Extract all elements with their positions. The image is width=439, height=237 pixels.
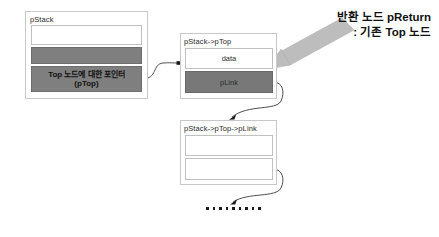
node-pstack-ptop-plink-label: pStack->pTop->pLink [184,124,257,133]
plink-link-field[interactable] [185,158,273,180]
callout-line-2: : 기존 Top 노드 [337,25,431,40]
ptop-data-field[interactable]: data [185,48,273,69]
connector-tail-arrowhead [230,200,237,205]
ptop-pointer-line1: Top 노드에 대한 포인터 [48,70,125,80]
ellipsis-dot [213,207,216,210]
node-pstack-label: pStack [30,15,54,24]
ellipsis-dot [258,207,261,210]
callout-line-1: 반환 노드 pReturn [337,10,431,25]
ellipsis-dot [206,207,209,210]
ellipsis-dot [226,207,229,210]
node-pstack-ptop-label: pStack->pTop [184,37,231,46]
ellipsis-dot [232,207,235,210]
callout-annotation: 반환 노드 pReturn : 기존 Top 노드 [337,10,431,40]
pstack-ptop-pointer-field[interactable]: Top 노드에 대한 포인터 (pTop) [31,66,142,92]
pstack-gray-field[interactable] [31,47,142,64]
ellipsis-dot [252,207,255,210]
pstack-empty-field[interactable] [31,25,142,45]
diagram-canvas: pStack Top 노드에 대한 포인터 (pTop) pStack->pTo… [0,0,439,237]
ellipsis-indicator [206,207,261,210]
ellipsis-dot [219,207,222,210]
ptop-plink-field[interactable]: pLink [185,71,273,93]
ptop-pointer-line2: (pTop) [74,79,98,89]
ellipsis-dot [245,207,248,210]
plink-data-field[interactable] [185,135,273,156]
ellipsis-dot [239,207,242,210]
